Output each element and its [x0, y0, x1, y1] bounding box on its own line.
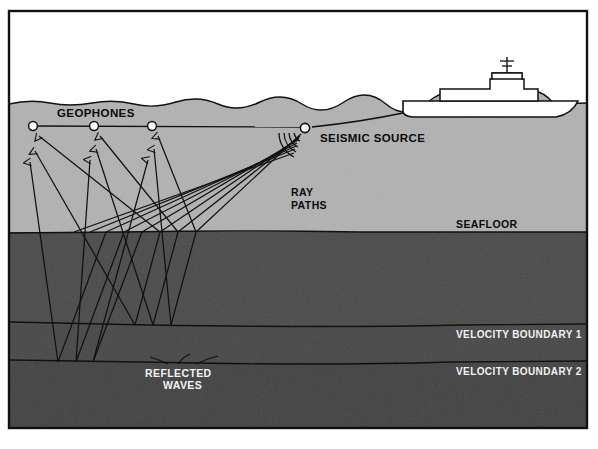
label-reflected-waves-line-2: WAVES: [163, 379, 202, 391]
ship-hull: [403, 101, 578, 117]
label-seismic-source: SEISMIC SOURCE: [320, 132, 425, 144]
geophone-1: [29, 122, 38, 131]
label-ray-paths-line-1: RAY: [291, 186, 313, 198]
label-velocity-boundary-2: VELOCITY BOUNDARY 2: [456, 366, 582, 377]
label-seafloor: SEAFLOOR: [456, 218, 518, 230]
geophone-3: [148, 122, 157, 131]
ship-bridge: [492, 73, 522, 79]
diagram-canvas: GEOPHONES SEISMIC SOURCE RAY PATHS SEAFL…: [0, 0, 598, 449]
seismic-source-marker: [300, 123, 309, 132]
seismic-survey-figure: GEOPHONES SEISMIC SOURCE RAY PATHS SEAFL…: [0, 0, 598, 449]
label-velocity-boundary-1: VELOCITY BOUNDARY 1: [456, 329, 582, 340]
geophone-2: [90, 122, 99, 131]
label-reflected-waves-line-1: REFLECTED: [145, 367, 212, 379]
label-geophones: GEOPHONES: [57, 107, 135, 119]
sediment-layer-1: [9, 232, 587, 325]
label-ray-paths-line-2: PATHS: [291, 199, 327, 211]
